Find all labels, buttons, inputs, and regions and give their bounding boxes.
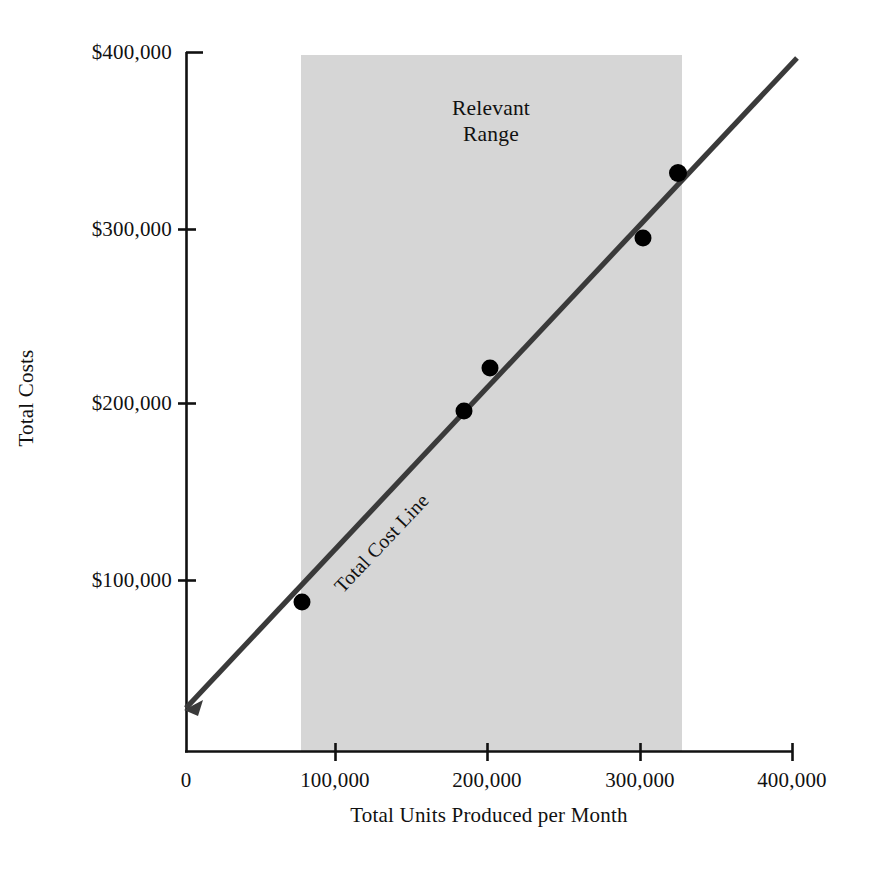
- x-axis-title: Total Units Produced per Month: [350, 803, 628, 828]
- xtick-label-400000: 400,000: [757, 768, 827, 793]
- xtick-label-0: 0: [181, 768, 192, 793]
- data-point: [635, 230, 652, 247]
- xtick-label-300000: 300,000: [605, 768, 675, 793]
- relevant-range-label-line-1: Relevant: [452, 95, 530, 121]
- data-point: [669, 164, 687, 182]
- relevant-range-label: Relevant Range: [452, 95, 530, 147]
- xtick-label-100000: 100,000: [300, 768, 370, 793]
- data-point: [294, 594, 311, 611]
- chart-canvas: $400,000 $300,000 $200,000 $100,000 0 10…: [0, 0, 876, 869]
- xtick-label-200000: 200,000: [452, 768, 522, 793]
- data-point: [456, 403, 473, 420]
- data-point: [482, 360, 499, 377]
- chart-svg: [0, 0, 876, 869]
- ytick-label-300000: $300,000: [4, 217, 172, 242]
- y-axis-title: Total Costs: [14, 350, 39, 447]
- relevant-range-band: [301, 55, 682, 752]
- relevant-range-label-line-2: Range: [452, 121, 530, 147]
- ytick-label-400000: $400,000: [4, 40, 172, 65]
- ytick-label-100000: $100,000: [4, 568, 172, 593]
